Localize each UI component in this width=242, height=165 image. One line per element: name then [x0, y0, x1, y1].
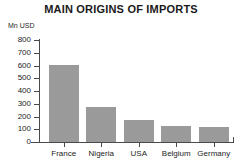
bar-chart-figure: MAIN ORIGINS OF IMPORTS Mn USD 800700600…	[0, 0, 242, 165]
bar-germany	[199, 127, 229, 142]
bar-france	[49, 65, 79, 142]
x-axis-tick	[214, 143, 215, 147]
y-axis-tick-label: 300	[6, 100, 31, 108]
x-axis-tick	[101, 143, 102, 147]
y-axis-tick-label: 100	[6, 125, 31, 133]
plot-area	[40, 40, 236, 142]
chart-title: MAIN ORIGINS OF IMPORTS	[0, 3, 242, 15]
y-axis-tick-label: 200	[6, 113, 31, 121]
y-axis-label: Mn USD	[8, 22, 34, 29]
y-axis-tick-label: 0	[6, 138, 31, 146]
x-axis-tick	[176, 143, 177, 147]
bar-belgium	[161, 126, 191, 142]
y-axis-tick	[34, 142, 40, 143]
x-axis-line	[31, 142, 234, 143]
x-axis-label-germany: Germany	[189, 149, 239, 158]
y-axis-tick-label: 500	[6, 74, 31, 82]
bar-usa	[124, 120, 154, 142]
x-axis-tick	[139, 143, 140, 147]
bar-nigeria	[86, 107, 116, 142]
y-axis-tick-label: 400	[6, 87, 31, 95]
y-axis-tick-label: 700	[6, 49, 31, 57]
y-axis-tick-label: 600	[6, 62, 31, 70]
y-axis-tick-label: 800	[6, 36, 31, 44]
x-axis-tick	[64, 143, 65, 147]
